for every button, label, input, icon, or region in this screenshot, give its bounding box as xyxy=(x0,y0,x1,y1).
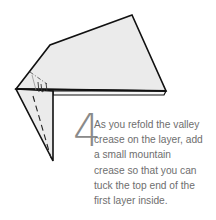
step-instructions: As you refold the valley crease on the l… xyxy=(94,117,216,208)
upper-flap xyxy=(16,15,166,91)
instruction-line: tuck the top end of the xyxy=(94,178,216,193)
instruction-line: crease on the layer, add xyxy=(94,132,216,147)
instruction-line: a small mountain xyxy=(94,147,216,162)
instruction-line: As you refold the valley xyxy=(94,117,216,132)
instruction-line: crease so that you can xyxy=(94,163,216,178)
instruction-line: first layer inside. xyxy=(94,193,216,208)
